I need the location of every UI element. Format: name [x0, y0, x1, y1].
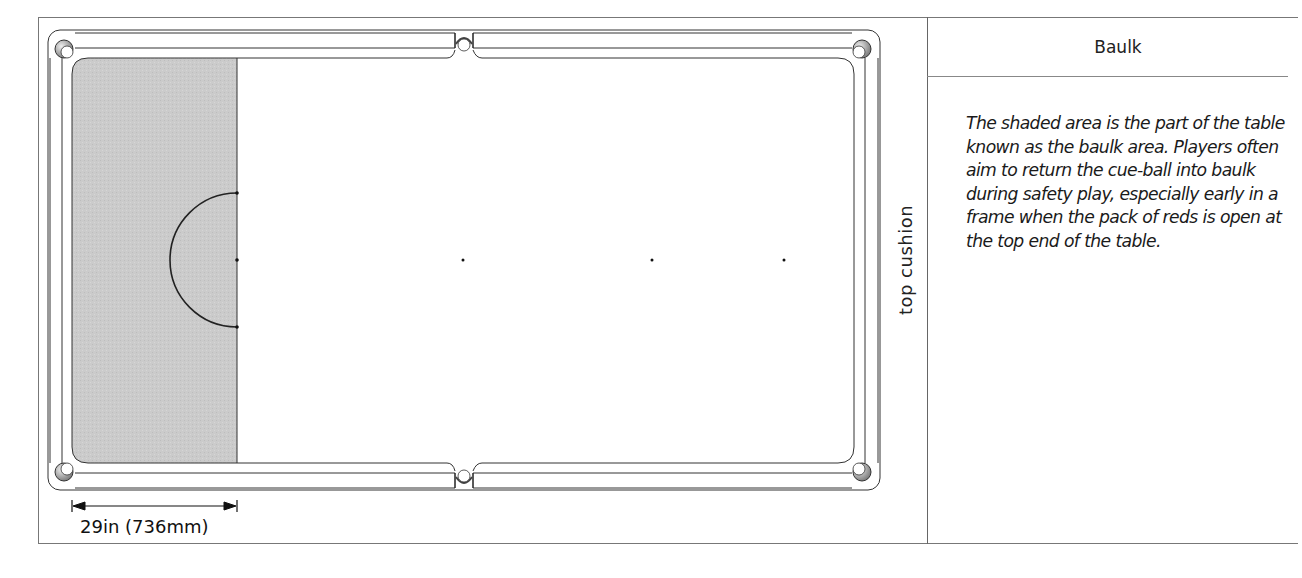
- corner-pocket-bottom-left: [55, 463, 73, 481]
- top-cushion-label: top cushion: [895, 205, 916, 315]
- corner-pocket-bottom-right: [853, 463, 871, 481]
- brown-spot: [235, 258, 239, 262]
- black-spot: [783, 259, 786, 262]
- d-bottom-marker: [235, 325, 239, 329]
- corner-pocket-top-right: [853, 40, 871, 58]
- baulk-area: [72, 58, 237, 463]
- corner-pocket-top-left: [55, 40, 73, 58]
- baulk-distance-label: 29in (736mm): [80, 516, 209, 537]
- d-top-marker: [235, 191, 239, 195]
- dimension-arrow: [72, 500, 237, 512]
- blue-spot: [462, 259, 465, 262]
- panel-description: The shaded area is the part of the table…: [966, 112, 1296, 253]
- panel-title: Baulk: [928, 17, 1302, 76]
- pink-spot: [651, 259, 654, 262]
